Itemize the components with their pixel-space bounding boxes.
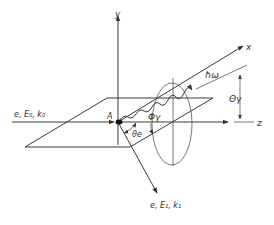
outgoing-electron-label: e, E₁, k₁ [150, 201, 181, 210]
theta-electron-label: θe [132, 130, 142, 139]
z-axis-label: z [256, 118, 262, 128]
interaction-point [116, 120, 123, 125]
y-axis-label: y [114, 9, 121, 19]
incoming-electron-label: e, E₀, k₀ [14, 110, 46, 119]
x-axis [118, 46, 243, 122]
phi-gamma-label: Φγ [148, 112, 161, 122]
x-axis-label: x [245, 42, 252, 52]
point-a-label: A [106, 112, 112, 121]
bremsstrahlung-diagram: y z e, E₀, k₀ x ħω e, E₁, k₁ A Θγ Φγ θe [0, 0, 274, 225]
photon-label: ħω [205, 70, 219, 80]
photon-direction-line [196, 65, 247, 89]
theta-gamma-label: Θγ [229, 94, 242, 104]
